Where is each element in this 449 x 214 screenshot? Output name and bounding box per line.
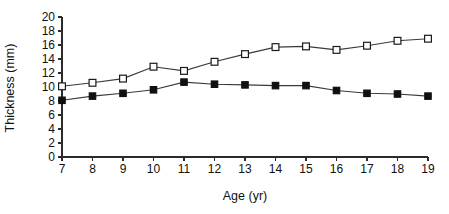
data-point-filled-square-series <box>333 87 339 93</box>
line-chart: 02468101214161820 7891011121314151617181… <box>0 0 449 214</box>
x-axis-tick-label: 10 <box>147 162 161 176</box>
data-point-filled-square-series <box>59 97 65 103</box>
data-point-filled-square-series <box>394 91 400 97</box>
x-axis-tick-label: 17 <box>360 162 374 176</box>
data-point-open-square-series <box>59 83 66 90</box>
x-axis-tick-label: 18 <box>391 162 405 176</box>
x-axis-tick-label: 15 <box>299 162 313 176</box>
y-axis-title: Thickness (mm) <box>3 44 17 133</box>
data-point-filled-square-series <box>272 82 278 88</box>
y-axis-tick-label: 20 <box>42 10 56 24</box>
data-point-open-square-series <box>272 44 279 51</box>
x-axis-title: Age (yr) <box>223 189 267 203</box>
x-axis-tick-label: 13 <box>238 162 252 176</box>
data-point-open-square-series <box>89 79 96 86</box>
y-axis-tick-label: 8 <box>48 94 55 108</box>
data-point-open-square-series <box>394 37 401 44</box>
data-point-filled-square-series <box>150 87 156 93</box>
y-axis-tick-label: 12 <box>42 66 56 80</box>
data-series-group <box>59 35 432 103</box>
data-point-open-square-series <box>120 75 127 82</box>
y-axis-tick-label: 16 <box>42 38 56 52</box>
y-axis-tick-label: 6 <box>48 108 55 122</box>
data-point-open-square-series <box>333 47 340 54</box>
x-axis-tick-label: 7 <box>59 162 66 176</box>
x-axis-tick-label: 19 <box>421 162 435 176</box>
data-point-filled-square-series <box>425 93 431 99</box>
data-point-filled-square-series <box>120 90 126 96</box>
y-axis-tick-label: 10 <box>42 80 56 94</box>
data-point-open-square-series <box>211 58 218 65</box>
data-point-filled-square-series <box>89 93 95 99</box>
y-axis-tick-label: 0 <box>48 150 55 164</box>
chart-figure: 02468101214161820 7891011121314151617181… <box>0 0 449 214</box>
x-axis-tick-label: 16 <box>330 162 344 176</box>
x-axis-tick-label: 11 <box>178 162 191 176</box>
data-point-filled-square-series <box>303 82 309 88</box>
data-point-open-square-series <box>425 35 432 42</box>
data-point-filled-square-series <box>364 90 370 96</box>
y-axis-tick-label: 14 <box>42 52 56 66</box>
x-axis-tick-label: 14 <box>269 162 283 176</box>
data-point-open-square-series <box>242 51 249 58</box>
y-axis-tick-label: 4 <box>48 122 55 136</box>
y-axis-tick-label: 18 <box>42 24 56 38</box>
data-point-filled-square-series <box>242 82 248 88</box>
x-axis-tick-label: 8 <box>89 162 96 176</box>
y-axis-tick-label: 2 <box>48 136 55 150</box>
series-line-open-square-series <box>62 39 428 87</box>
data-point-filled-square-series <box>211 81 217 87</box>
data-point-open-square-series <box>181 68 188 75</box>
data-point-open-square-series <box>150 63 157 70</box>
x-axis: 78910111213141516171819 <box>59 157 435 176</box>
x-axis-tick-label: 9 <box>120 162 127 176</box>
data-point-filled-square-series <box>181 79 187 85</box>
data-point-open-square-series <box>303 43 310 50</box>
data-point-open-square-series <box>364 42 371 49</box>
x-axis-tick-label: 12 <box>208 162 222 176</box>
